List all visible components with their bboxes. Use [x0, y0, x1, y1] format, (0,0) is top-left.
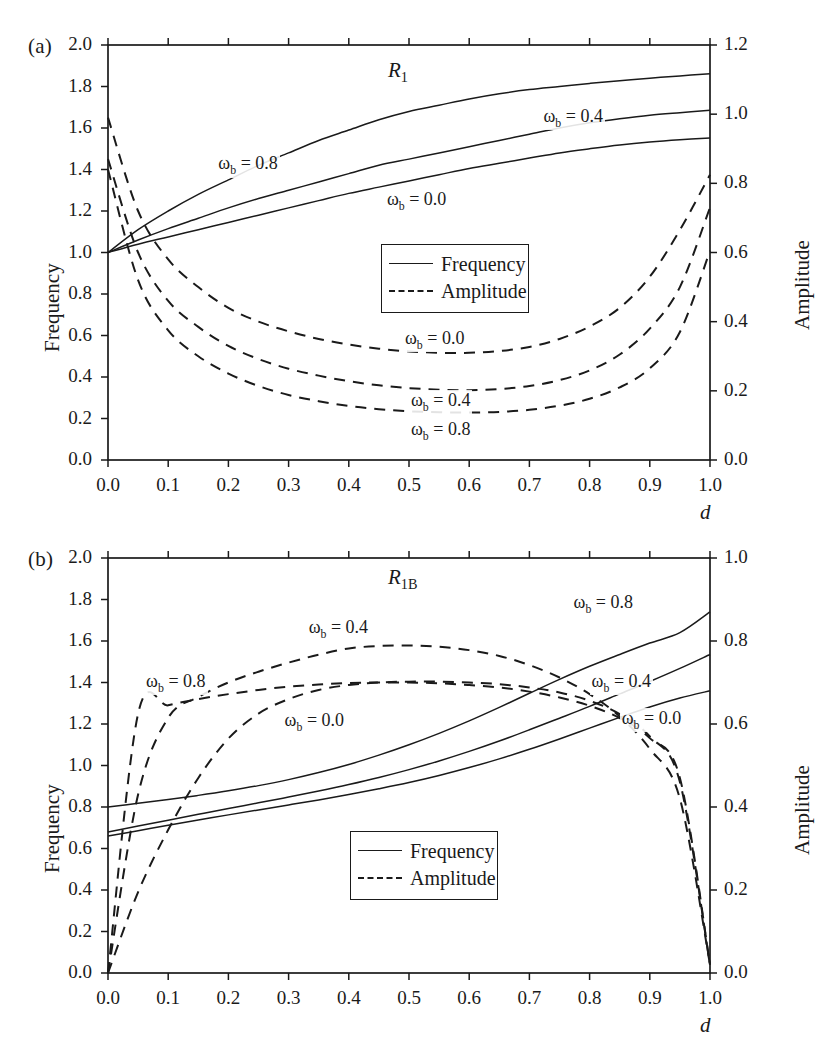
omega-value: = 0.8: [236, 153, 278, 173]
panel-a-canvas: [0, 0, 822, 525]
curve-label: ωb = 0.8: [144, 671, 207, 696]
omega-symbol: ω: [592, 671, 604, 691]
omega-symbol: ω: [543, 106, 555, 126]
omega-value: = 0.0: [423, 328, 465, 348]
curve-label: ωb = 0.0: [403, 328, 466, 353]
omega-value: = 0.0: [639, 708, 681, 728]
omega-value: = 0.4: [326, 617, 368, 637]
y-tick-label-left: 1.0: [40, 241, 92, 263]
omega-value: = 0.0: [302, 710, 344, 730]
y-tick-label-left: 1.8: [40, 588, 92, 610]
curve-label: ωb = 0.4: [409, 390, 472, 415]
x-tick-label: 0.1: [145, 987, 191, 1009]
curve-label: ωb = 0.0: [385, 189, 448, 214]
x-tick-label: 0.2: [205, 474, 251, 496]
y-tick-label-right: 0.8: [724, 629, 776, 651]
curve-label: ωb = 0.4: [590, 671, 653, 696]
y-tick-label-left: 2.0: [40, 546, 92, 568]
y-tick-label-left: 1.0: [40, 754, 92, 776]
y-tick-label-left: 1.8: [40, 75, 92, 97]
x-tick-label: 0.9: [627, 474, 673, 496]
y-tick-label-right: 0.2: [724, 379, 776, 401]
y-tick-label-right: 1.0: [724, 546, 776, 568]
x-tick-label: 0.5: [386, 987, 432, 1009]
x-tick-label: 0.0: [85, 474, 131, 496]
omega-symbol: ω: [146, 671, 158, 691]
y-tick-label-left: 0.8: [40, 795, 92, 817]
y-tick-label-left: 1.4: [40, 158, 92, 180]
x-tick-label: 0.5: [386, 474, 432, 496]
y-tick-label-right: 0.2: [724, 878, 776, 900]
amplitude-curve: [108, 118, 710, 353]
y-tick-label-left: 1.4: [40, 671, 92, 693]
x-tick-label: 1.0: [687, 987, 733, 1009]
omega-value: = 0.8: [429, 419, 471, 439]
omega-symbol: ω: [285, 710, 297, 730]
y-tick-label-left: 1.2: [40, 712, 92, 734]
y-tick-label-right: 1.0: [724, 102, 776, 124]
curve-label: ωb = 0.0: [620, 708, 683, 733]
curve-label: ωb = 0.8: [572, 592, 635, 617]
omega-value: = 0.4: [609, 671, 651, 691]
y-tick-label-left: 0.6: [40, 837, 92, 859]
omega-value: = 0.0: [405, 189, 447, 209]
omega-symbol: ω: [405, 328, 417, 348]
panel-b-canvas: [0, 525, 822, 1050]
x-tick-label: 0.4: [326, 987, 372, 1009]
omega-symbol: ω: [574, 592, 586, 612]
y-tick-label-left: 1.6: [40, 629, 92, 651]
x-tick-label: 0.6: [446, 987, 492, 1009]
y-tick-label-left: 0.2: [40, 407, 92, 429]
panel-a: (a) Frequency Amplitude R1 d FrequencyAm…: [0, 0, 822, 525]
y-tick-label-right: 0.4: [724, 795, 776, 817]
x-tick-label: 0.3: [266, 474, 312, 496]
x-tick-label: 0.1: [145, 474, 191, 496]
omega-symbol: ω: [411, 419, 423, 439]
y-tick-label-left: 0.0: [40, 961, 92, 983]
y-tick-label-right: 0.0: [724, 448, 776, 470]
y-tick-label-right: 0.6: [724, 712, 776, 734]
y-tick-label-right: 1.2: [724, 33, 776, 55]
panel-b: (b) Frequency Amplitude R1B d FrequencyA…: [0, 525, 822, 1050]
x-tick-label: 0.0: [85, 987, 131, 1009]
x-tick-label: 0.2: [205, 987, 251, 1009]
x-tick-label: 0.3: [266, 987, 312, 1009]
y-tick-label-left: 1.6: [40, 116, 92, 138]
y-tick-label-left: 1.2: [40, 199, 92, 221]
x-tick-label: 0.4: [326, 474, 372, 496]
curve-label: ωb = 0.4: [307, 617, 370, 642]
y-tick-label-right: 0.0: [724, 961, 776, 983]
y-tick-label-left: 0.0: [40, 448, 92, 470]
y-tick-label-left: 0.4: [40, 365, 92, 387]
y-tick-label-right: 0.8: [724, 171, 776, 193]
x-tick-label: 1.0: [687, 474, 733, 496]
y-tick-label-right: 0.4: [724, 310, 776, 332]
y-tick-label-left: 0.8: [40, 282, 92, 304]
curve-label: ωb = 0.4: [541, 106, 604, 131]
frequency-curve: [108, 74, 710, 253]
y-tick-label-left: 0.6: [40, 324, 92, 346]
curve-label: ωb = 0.8: [216, 153, 279, 178]
plot-frame: [108, 558, 710, 973]
curve-label: ωb = 0.8: [409, 419, 472, 444]
y-tick-label-left: 0.2: [40, 920, 92, 942]
omega-symbol: ω: [218, 153, 230, 173]
y-tick-label-left: 0.4: [40, 878, 92, 900]
omega-symbol: ω: [622, 708, 634, 728]
y-tick-label-left: 2.0: [40, 33, 92, 55]
omega-symbol: ω: [387, 189, 399, 209]
omega-value: = 0.4: [429, 390, 471, 410]
x-tick-label: 0.9: [627, 987, 673, 1009]
x-tick-label: 0.6: [446, 474, 492, 496]
y-tick-label-right: 0.6: [724, 241, 776, 263]
omega-value: = 0.8: [591, 592, 633, 612]
curve-label: ωb = 0.0: [283, 710, 346, 735]
omega-value: = 0.4: [561, 106, 603, 126]
omega-symbol: ω: [309, 617, 321, 637]
x-tick-label: 0.8: [567, 987, 613, 1009]
x-tick-label: 0.7: [506, 474, 552, 496]
x-tick-label: 0.8: [567, 474, 613, 496]
omega-symbol: ω: [411, 390, 423, 410]
x-tick-label: 0.7: [506, 987, 552, 1009]
omega-value: = 0.8: [164, 671, 206, 691]
